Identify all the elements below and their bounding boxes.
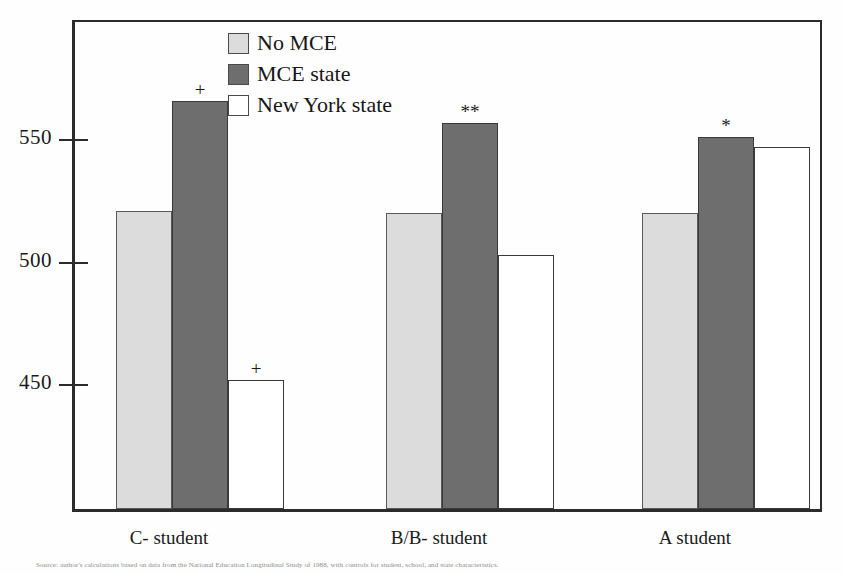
y-axis-tick (59, 262, 75, 264)
y-axis-tick (59, 384, 75, 386)
bar-nomce-b-b-student (386, 213, 442, 509)
legend-item-new-york-state: New York state (228, 92, 392, 118)
y-axis-tick-label: 450 (0, 372, 52, 393)
legend-label-no-mce: No MCE (257, 32, 337, 54)
legend-item-no-mce: No MCE (228, 30, 392, 56)
y-axis-tick-label: 500 (0, 250, 52, 271)
significance-marker: + (170, 80, 230, 99)
bar-mce-c-student (172, 101, 228, 509)
chart-page: ++*** 550500450 No MCE MCE state New Yor… (0, 0, 844, 574)
chart-legend: No MCE MCE state New York state (228, 30, 392, 118)
y-axis-tick-label: 550 (0, 127, 52, 148)
bar-nomce-a-student (642, 213, 698, 509)
y-axis-tick (59, 139, 75, 141)
legend-label-new-york-state: New York state (257, 94, 392, 116)
figure-caption: Source: author's calculations based on d… (36, 561, 826, 570)
y-axis-tick-inner (75, 139, 88, 141)
bar-ny-b-b-student (498, 255, 554, 509)
significance-marker: ** (440, 102, 500, 121)
y-axis-tick-inner (75, 262, 88, 264)
legend-label-mce-state: MCE state (257, 63, 351, 85)
plot-frame: ++*** (72, 20, 822, 512)
x-axis-label: B/B- student (329, 528, 549, 547)
x-axis-label: A student (585, 528, 805, 547)
legend-swatch-mce-state (228, 64, 249, 85)
bar-nomce-c-student (116, 211, 172, 509)
legend-swatch-new-york-state (228, 95, 249, 116)
bar-mce-a-student (698, 137, 754, 509)
significance-marker: + (226, 359, 286, 378)
bar-mce-b-b-student (442, 123, 498, 509)
legend-swatch-no-mce (228, 33, 249, 54)
bar-ny-a-student (754, 147, 810, 509)
x-axis-label: C- student (59, 528, 279, 547)
significance-marker: * (696, 116, 756, 135)
y-axis-tick-inner (75, 384, 88, 386)
bar-ny-c-student (228, 380, 284, 509)
legend-item-mce-state: MCE state (228, 61, 392, 87)
